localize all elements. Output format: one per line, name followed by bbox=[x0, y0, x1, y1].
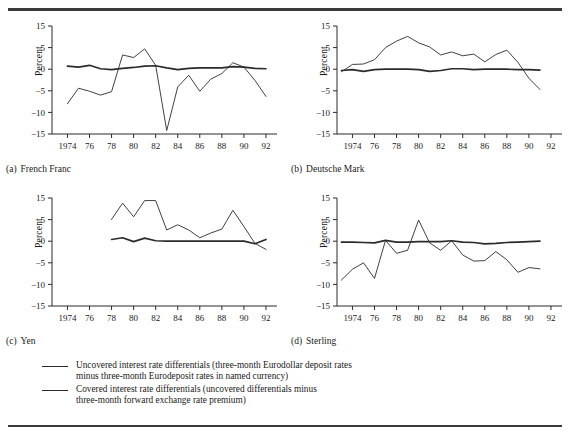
svg-text:78: 78 bbox=[392, 313, 402, 323]
svg-text:5: 5 bbox=[326, 215, 331, 225]
svg-text:82: 82 bbox=[151, 313, 160, 323]
panel-deutsche-mark: Percent 1550−5−10−1519747678808284868890… bbox=[285, 14, 570, 186]
svg-text:92: 92 bbox=[546, 141, 555, 151]
svg-text:−5: −5 bbox=[35, 258, 45, 268]
svg-text:0: 0 bbox=[326, 64, 331, 74]
svg-text:84: 84 bbox=[458, 141, 468, 151]
svg-text:5: 5 bbox=[41, 215, 46, 225]
panel-a-tag: (a) bbox=[6, 164, 17, 174]
svg-text:76: 76 bbox=[85, 141, 95, 151]
svg-text:78: 78 bbox=[107, 141, 117, 151]
svg-text:0: 0 bbox=[41, 236, 46, 246]
svg-text:88: 88 bbox=[217, 141, 227, 151]
svg-text:0: 0 bbox=[41, 64, 46, 74]
svg-text:15: 15 bbox=[36, 193, 46, 203]
svg-text:92: 92 bbox=[546, 313, 555, 323]
svg-text:5: 5 bbox=[41, 43, 46, 53]
svg-text:80: 80 bbox=[129, 313, 139, 323]
svg-text:80: 80 bbox=[414, 141, 424, 151]
svg-text:−5: −5 bbox=[320, 86, 330, 96]
svg-text:1974: 1974 bbox=[58, 141, 77, 151]
svg-text:76: 76 bbox=[370, 141, 380, 151]
panel-b-plot: 1550−5−10−151974767880828486889092 bbox=[285, 14, 570, 164]
panel-d-title: Sterling bbox=[306, 336, 336, 346]
panel-c-svg: 1550−5−10−151974767880828486889092 bbox=[0, 186, 285, 336]
svg-text:−15: −15 bbox=[31, 301, 46, 311]
svg-text:84: 84 bbox=[173, 141, 183, 151]
panel-d-tag: (d) bbox=[291, 336, 302, 346]
legend-entry-covered: Covered interest rate differentials (unc… bbox=[0, 384, 570, 405]
svg-text:90: 90 bbox=[239, 141, 249, 151]
legend: Uncovered interest rate differentials (t… bbox=[0, 360, 570, 408]
svg-text:76: 76 bbox=[370, 313, 380, 323]
legend-entry-uncovered: Uncovered interest rate differentials (t… bbox=[0, 360, 570, 381]
svg-text:−10: −10 bbox=[31, 108, 46, 118]
panel-a-svg: 1550−5−10−151974767880828486889092 bbox=[0, 14, 285, 164]
panel-grid: Percent 1550−5−10−1519747678808284868890… bbox=[0, 14, 570, 359]
panel-c-tag: (c) bbox=[6, 336, 17, 346]
panel-sterling: Percent 1550−5−10−1519747678808284868890… bbox=[285, 186, 570, 358]
panel-french-franc: Percent 1550−5−10−1519747678808284868890… bbox=[0, 14, 285, 186]
svg-text:82: 82 bbox=[436, 313, 445, 323]
svg-text:86: 86 bbox=[480, 141, 490, 151]
svg-text:86: 86 bbox=[480, 313, 490, 323]
panel-c-caption: (c)Yen bbox=[6, 336, 35, 346]
panel-a-plot: 1550−5−10−151974767880828486889092 bbox=[0, 14, 285, 164]
svg-text:−15: −15 bbox=[316, 129, 331, 139]
panel-d-plot: 1550−5−10−151974767880828486889092 bbox=[285, 186, 570, 336]
svg-text:−10: −10 bbox=[316, 280, 331, 290]
svg-text:88: 88 bbox=[502, 141, 512, 151]
svg-text:−15: −15 bbox=[31, 129, 46, 139]
svg-text:78: 78 bbox=[107, 313, 117, 323]
panel-a-caption: (a)French Franc bbox=[6, 164, 71, 174]
svg-text:1974: 1974 bbox=[58, 313, 77, 323]
panel-c-plot: 1550−5−10−151974767880828486889092 bbox=[0, 186, 285, 336]
svg-text:−15: −15 bbox=[316, 301, 331, 311]
svg-text:84: 84 bbox=[173, 313, 183, 323]
svg-text:82: 82 bbox=[151, 141, 160, 151]
svg-text:15: 15 bbox=[321, 21, 331, 31]
legend-uncovered-line2: minus three-month Eurodeposit rates in n… bbox=[76, 371, 570, 382]
panel-b-svg: 1550−5−10−151974767880828486889092 bbox=[285, 14, 570, 164]
panel-b-caption: (b)Deutsche Mark bbox=[291, 164, 364, 174]
svg-text:84: 84 bbox=[458, 313, 468, 323]
legend-line-swatch-uncovered bbox=[42, 366, 68, 367]
svg-text:92: 92 bbox=[261, 141, 270, 151]
svg-text:90: 90 bbox=[524, 313, 534, 323]
svg-text:92: 92 bbox=[261, 313, 270, 323]
svg-text:15: 15 bbox=[321, 193, 331, 203]
legend-text-covered: Covered interest rate differentials (unc… bbox=[76, 384, 570, 405]
legend-text-uncovered: Uncovered interest rate differentials (t… bbox=[76, 360, 570, 381]
svg-text:88: 88 bbox=[217, 313, 227, 323]
panel-c-title: Yen bbox=[21, 336, 36, 346]
svg-text:80: 80 bbox=[129, 141, 139, 151]
svg-text:−5: −5 bbox=[35, 86, 45, 96]
panel-d-caption: (d)Sterling bbox=[291, 336, 336, 346]
svg-text:−10: −10 bbox=[31, 280, 46, 290]
svg-text:82: 82 bbox=[436, 141, 445, 151]
svg-text:−5: −5 bbox=[320, 258, 330, 268]
panel-d-svg: 1550−5−10−151974767880828486889092 bbox=[285, 186, 570, 336]
panel-yen: Percent 1550−5−10−1519747678808284868890… bbox=[0, 186, 285, 358]
svg-text:78: 78 bbox=[392, 141, 402, 151]
svg-text:76: 76 bbox=[85, 313, 95, 323]
svg-text:5: 5 bbox=[326, 43, 331, 53]
legend-covered-line1: Covered interest rate differentials (unc… bbox=[76, 384, 570, 395]
legend-covered-line2: three-month forward exchange rate premiu… bbox=[76, 395, 570, 406]
svg-text:90: 90 bbox=[524, 141, 534, 151]
top-rule bbox=[8, 8, 562, 11]
svg-text:0: 0 bbox=[326, 236, 331, 246]
svg-text:−10: −10 bbox=[316, 108, 331, 118]
svg-text:88: 88 bbox=[502, 313, 512, 323]
svg-text:90: 90 bbox=[239, 313, 249, 323]
panel-b-title: Deutsche Mark bbox=[306, 164, 364, 174]
svg-text:86: 86 bbox=[195, 313, 205, 323]
svg-text:15: 15 bbox=[36, 21, 46, 31]
legend-line-swatch-covered bbox=[42, 390, 68, 391]
svg-text:1974: 1974 bbox=[343, 313, 362, 323]
svg-text:80: 80 bbox=[414, 313, 424, 323]
svg-text:86: 86 bbox=[195, 141, 205, 151]
legend-uncovered-line1: Uncovered interest rate differentials (t… bbox=[76, 360, 570, 371]
panel-a-title: French Franc bbox=[21, 164, 71, 174]
panel-b-tag: (b) bbox=[291, 164, 302, 174]
